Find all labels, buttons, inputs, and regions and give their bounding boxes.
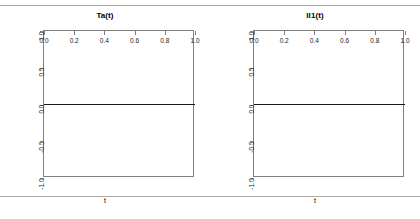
- plot-panel-il1: Il1(t) IL1(t) 1.00.50.0-0.5-1.00.00.20.4…: [210, 0, 420, 219]
- data-line-il1: [254, 104, 405, 105]
- x-tick-ta-mark: [165, 31, 166, 35]
- x-tick-label-il1: 0.0: [249, 37, 258, 44]
- x-tick-label-il1: 0.2: [280, 37, 289, 44]
- x-tick-il1-mark: [345, 31, 346, 35]
- plot-area-ta: 1.00.50.0-0.5-1.00.00.20.40.60.81.0: [43, 30, 194, 177]
- x-axis-label-il1: t: [210, 197, 420, 205]
- y-tick-label-il1: -1.0: [248, 178, 255, 189]
- data-line-ta: [44, 104, 195, 105]
- plot-panel-ta: Ta(t) Ta(t) 1.00.50.0-0.5-1.00.00.20.40.…: [0, 0, 210, 219]
- figure-canvas: Ta(t) Ta(t) 1.00.50.0-0.5-1.00.00.20.40.…: [0, 0, 420, 219]
- x-tick-ta-mark: [44, 31, 45, 35]
- x-tick-label-ta: 1.0: [190, 37, 199, 44]
- x-tick-label-il1: 0.6: [340, 37, 349, 44]
- y-tick-label-ta: -0.5: [38, 141, 45, 152]
- y-tick-label-ta: -1.0: [38, 178, 45, 189]
- x-tick-il1-mark: [314, 31, 315, 35]
- y-tick-label-ta: 0.0: [38, 105, 45, 114]
- x-tick-label-il1: 1.0: [400, 37, 409, 44]
- x-tick-il1-mark: [405, 31, 406, 35]
- y-tick-label-il1: 0.5: [248, 68, 255, 77]
- x-tick-ta-mark: [195, 31, 196, 35]
- x-tick-ta-mark: [74, 31, 75, 35]
- plot-title-ta: Ta(t): [0, 11, 210, 21]
- y-tick-label-il1: 0.0: [248, 105, 255, 114]
- x-tick-il1-mark: [254, 31, 255, 35]
- x-tick-label-ta: 0.0: [39, 37, 48, 44]
- plot-title-il1: Il1(t): [210, 11, 420, 21]
- x-tick-ta-mark: [104, 31, 105, 35]
- plot-area-il1: 1.00.50.0-0.5-1.00.00.20.40.60.81.0: [253, 30, 404, 177]
- x-tick-label-ta: 0.8: [160, 37, 169, 44]
- x-tick-ta-mark: [135, 31, 136, 35]
- x-tick-label-ta: 0.6: [130, 37, 139, 44]
- y-axis-label-il1: IL1(t): [224, 0, 234, 30]
- x-tick-il1-mark: [375, 31, 376, 35]
- x-tick-label-ta: 0.2: [70, 37, 79, 44]
- y-axis-label-ta: Ta(t): [14, 0, 24, 30]
- x-tick-label-ta: 0.4: [100, 37, 109, 44]
- x-axis-label-ta: t: [0, 197, 210, 205]
- y-tick-label-ta: 0.5: [38, 68, 45, 77]
- x-tick-il1-mark: [284, 31, 285, 35]
- x-tick-label-il1: 0.4: [310, 37, 319, 44]
- x-tick-label-il1: 0.8: [370, 37, 379, 44]
- y-tick-label-il1: -0.5: [248, 141, 255, 152]
